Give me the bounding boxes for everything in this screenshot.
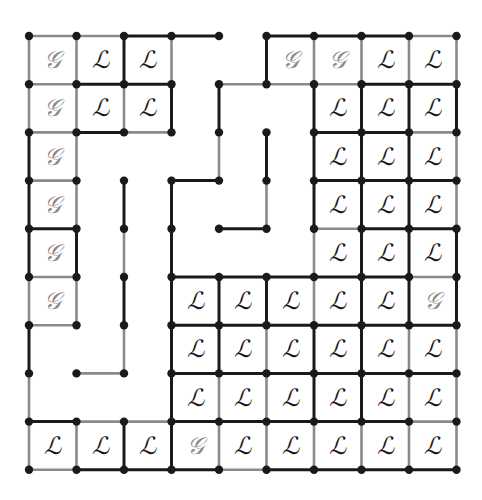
- grid-node-dot: [310, 225, 318, 233]
- grid-node-dot: [215, 225, 223, 233]
- grid-node-dot: [262, 273, 270, 281]
- cell-label-l: ℒ: [377, 384, 395, 412]
- grid-node-dot: [215, 273, 223, 281]
- grid-node-dot: [405, 128, 413, 136]
- cell-label-l: ℒ: [329, 287, 347, 315]
- grid-node-dot: [357, 80, 365, 88]
- grid-node-dot: [167, 225, 175, 233]
- grid-node-dot: [357, 273, 365, 281]
- grid-node-dot: [25, 225, 33, 233]
- cell-label-l: ℒ: [329, 239, 347, 267]
- grid-node-dot: [405, 80, 413, 88]
- cell-letters: 𝒢ℒℒ𝒢𝒢ℒℒ𝒢ℒℒℒℒℒ𝒢ℒℒℒ𝒢ℒℒℒ𝒢ℒℒℒ𝒢ℒℒℒℒℒ𝒢ℒℒℒℒℒℒℒℒ…: [44, 46, 445, 460]
- grid-node-dot: [405, 369, 413, 377]
- cell-label-l: ℒ: [44, 432, 62, 460]
- cell-label-l: ℒ: [424, 46, 442, 74]
- grid-node-dot: [120, 273, 128, 281]
- cell-label-l: ℒ: [282, 287, 300, 315]
- grid-node-dot: [405, 273, 413, 281]
- grid-node-dot: [215, 80, 223, 88]
- grid-node-dot: [310, 128, 318, 136]
- cell-label-l: ℒ: [329, 335, 347, 363]
- grid-node-dot: [72, 32, 80, 40]
- grid-node-dot: [25, 417, 33, 425]
- cell-label-g: 𝒢: [44, 287, 65, 315]
- grid-node-dot: [452, 176, 460, 184]
- cell-label-l: ℒ: [329, 432, 347, 460]
- grid-node-dot: [25, 80, 33, 88]
- cell-label-l: ℒ: [187, 335, 205, 363]
- grid-node-dot: [310, 369, 318, 377]
- grid-node-dot: [452, 466, 460, 474]
- grid-node-dot: [262, 369, 270, 377]
- cell-label-l: ℒ: [329, 94, 347, 122]
- cell-label-l: ℒ: [329, 191, 347, 219]
- grid-node-dot: [25, 321, 33, 329]
- grid-node-dot: [25, 176, 33, 184]
- cell-label-g: 𝒢: [329, 46, 350, 74]
- grid-node-dot: [120, 128, 128, 136]
- grid-node-dot: [357, 32, 365, 40]
- cell-label-l: ℒ: [424, 384, 442, 412]
- grid-node-dot: [120, 321, 128, 329]
- grid-node-dot: [120, 176, 128, 184]
- grid-node-dot: [120, 369, 128, 377]
- grid-node-dot: [405, 32, 413, 40]
- grid-node-dot: [167, 273, 175, 281]
- cell-label-l: ℒ: [234, 432, 252, 460]
- grid-node-dot: [262, 128, 270, 136]
- grid-node-dot: [72, 273, 80, 281]
- grid-node-dot: [262, 321, 270, 329]
- cell-label-l: ℒ: [377, 191, 395, 219]
- grid-node-dot: [357, 176, 365, 184]
- cell-label-g: 𝒢: [44, 94, 65, 122]
- cell-label-l: ℒ: [92, 46, 110, 74]
- grid-node-dot: [167, 80, 175, 88]
- cell-label-g: 𝒢: [187, 432, 208, 460]
- cell-label-g: 𝒢: [44, 191, 65, 219]
- grid-node-dot: [120, 80, 128, 88]
- grid-node-dot: [452, 128, 460, 136]
- cell-label-l: ℒ: [424, 143, 442, 171]
- cell-label-l: ℒ: [92, 94, 110, 122]
- cell-label-l: ℒ: [424, 239, 442, 267]
- cell-label-l: ℒ: [424, 432, 442, 460]
- grid-node-dot: [262, 32, 270, 40]
- grid-node-dot: [452, 225, 460, 233]
- grid-node-dot: [167, 417, 175, 425]
- grid-node-dot: [452, 417, 460, 425]
- grid-diagram: 𝒢ℒℒ𝒢𝒢ℒℒ𝒢ℒℒℒℒℒ𝒢ℒℒℒ𝒢ℒℒℒ𝒢ℒℒℒ𝒢ℒℒℒℒℒ𝒢ℒℒℒℒℒℒℒℒ…: [0, 0, 482, 500]
- grid-node-dot: [310, 176, 318, 184]
- grid-node-dot: [357, 321, 365, 329]
- grid-node-dot: [25, 273, 33, 281]
- grid-node-dot: [72, 369, 80, 377]
- cell-label-l: ℒ: [377, 46, 395, 74]
- grid-node-dot: [357, 128, 365, 136]
- grid-node-dot: [25, 32, 33, 40]
- cell-label-l: ℒ: [377, 94, 395, 122]
- grid-node-dot: [120, 225, 128, 233]
- cell-label-l: ℒ: [92, 432, 110, 460]
- grid-node-dot: [357, 466, 365, 474]
- grid-node-dot: [262, 176, 270, 184]
- cell-label-l: ℒ: [234, 384, 252, 412]
- grid-node-dot: [262, 417, 270, 425]
- grid-node-dot: [215, 369, 223, 377]
- cell-label-l: ℒ: [424, 94, 442, 122]
- cell-label-l: ℒ: [377, 287, 395, 315]
- grid-node-dot: [262, 225, 270, 233]
- grid-node-dot: [405, 225, 413, 233]
- cell-label-l: ℒ: [377, 143, 395, 171]
- cell-label-l: ℒ: [139, 94, 157, 122]
- grid-node-dot: [405, 466, 413, 474]
- grid-node-dot: [310, 80, 318, 88]
- grid-node-dot: [72, 225, 80, 233]
- grid-node-dot: [120, 466, 128, 474]
- grid-node-dot: [215, 176, 223, 184]
- cell-label-g: 𝒢: [282, 46, 303, 74]
- grid-node-dot: [310, 466, 318, 474]
- grid-node-dot: [452, 80, 460, 88]
- cell-label-g: 𝒢: [44, 143, 65, 171]
- cell-label-l: ℒ: [377, 335, 395, 363]
- cell-label-l: ℒ: [139, 432, 157, 460]
